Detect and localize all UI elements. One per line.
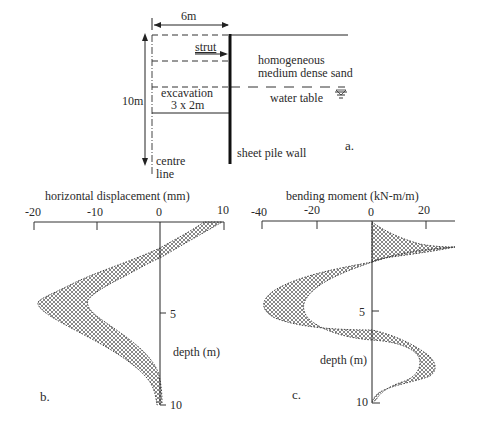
- water-table-label: water table: [270, 91, 323, 105]
- panel-label-b: b.: [40, 389, 50, 404]
- arrow-right-icon: [222, 22, 229, 28]
- bending-moment-chart: bending moment (kN-m/m) -40 -20 0 20 5 1…: [251, 189, 455, 409]
- y-axis-label: depth (m): [320, 353, 367, 367]
- panel-label-c: c.: [292, 387, 301, 402]
- arrow-down-icon: [142, 158, 148, 166]
- arrow-up-icon: [142, 33, 148, 41]
- x-tick-label: -20: [304, 203, 320, 217]
- moment-envelope-upper: [372, 222, 455, 262]
- chart-b-title: horizontal displacement (mm): [45, 189, 190, 203]
- y-tick-label: 5: [359, 305, 365, 319]
- strut-arrow-icon: [220, 51, 228, 57]
- x-tick-label: -10: [87, 205, 103, 219]
- x-tick-label: 20: [418, 203, 430, 217]
- soil-label-1: homogeneous: [258, 53, 325, 67]
- depth-dim-label: 10m: [122, 94, 144, 108]
- y-tick-label: 5: [170, 307, 176, 321]
- x-tick-label: -40: [251, 205, 267, 219]
- excavation-label-2: 3 x 2m: [171, 98, 205, 112]
- water-table-icon: [335, 90, 347, 98]
- y-axis-label: depth (m): [173, 345, 220, 359]
- centre-label-1: centre: [156, 154, 185, 168]
- soil-label-2: medium dense sand: [258, 66, 353, 80]
- x-tick-label: 10: [217, 203, 229, 217]
- x-tick-label: 0: [156, 205, 162, 219]
- centre-label-2: line: [156, 167, 174, 181]
- panel-label-a: a.: [345, 138, 354, 153]
- strut-label: strut: [195, 40, 217, 54]
- y-tick-label: 10: [356, 395, 368, 409]
- displacement-chart: horizontal displacement (mm) -20 -10 0 1…: [25, 189, 229, 412]
- width-dim-label: 6m: [181, 9, 197, 23]
- wall-label: sheet pile wall: [237, 146, 307, 160]
- figure-canvas: 6m 10m water table excavation 3 x 2m she…: [0, 0, 477, 431]
- displacement-envelope: [38, 222, 222, 405]
- chart-c-title: bending moment (kN-m/m): [286, 189, 419, 203]
- schematic-panel: 6m 10m water table excavation 3 x 2m she…: [122, 9, 354, 181]
- x-tick-label: 0: [368, 205, 374, 219]
- arrow-left-icon: [154, 22, 161, 28]
- moment-envelope-main: [264, 247, 455, 402]
- y-tick-label: 10: [170, 398, 182, 412]
- x-tick-label: -20: [25, 205, 41, 219]
